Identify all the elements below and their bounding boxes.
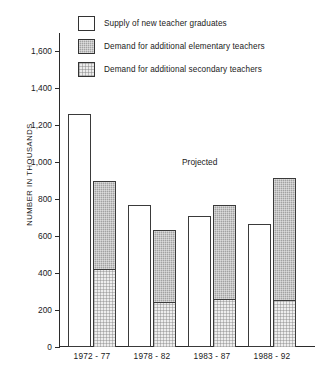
y-tick-label: 800 — [38, 194, 52, 204]
bar-segment-elementary — [213, 205, 236, 299]
bar-segment-elementary — [93, 181, 116, 269]
bar-group — [68, 33, 116, 347]
y-tick-label: 0 — [47, 342, 52, 352]
x-axis-label: 1978 - 82 — [120, 351, 184, 361]
bar-segment-secondary — [93, 269, 116, 348]
bar-supply — [128, 205, 151, 347]
bar-group — [188, 33, 236, 347]
bar-group — [128, 33, 176, 347]
bar-group — [248, 33, 296, 347]
bar-demand-stacked — [213, 205, 236, 347]
bar-segment-elementary — [273, 178, 296, 300]
y-tick-mark — [55, 310, 60, 311]
plot-area: 02004006008001,0001,2001,4001,600 1972 -… — [59, 33, 315, 347]
projected-annotation: Projected — [182, 157, 217, 167]
x-axis-label: 1988 - 92 — [240, 351, 304, 361]
y-tick-mark — [55, 125, 60, 126]
y-tick-label: 1,600 — [31, 46, 52, 56]
y-tick-mark — [55, 88, 60, 89]
legend-item-supply: Supply of new teacher graduates — [78, 12, 316, 34]
y-tick-label: 1,200 — [31, 120, 52, 130]
y-tick-mark — [55, 51, 60, 52]
legend-label-supply: Supply of new teacher graduates — [104, 19, 227, 28]
x-axis-label: 1983 - 87 — [180, 351, 244, 361]
y-tick-label: 400 — [38, 268, 52, 278]
bar-segment-elementary — [153, 230, 176, 302]
bar-supply — [68, 114, 91, 347]
y-tick-mark — [55, 162, 60, 163]
bar-demand-stacked — [273, 178, 296, 347]
y-tick-mark — [55, 199, 60, 200]
bar-segment-secondary — [153, 302, 176, 347]
y-tick-mark — [55, 236, 60, 237]
bar-supply — [188, 216, 211, 347]
y-axis-line — [59, 33, 60, 347]
y-tick-label: 600 — [38, 231, 52, 241]
chart-figure: Supply of new teacher graduates Demand f… — [0, 0, 320, 379]
y-tick-label: 200 — [38, 305, 52, 315]
bar-segment-secondary — [213, 299, 236, 347]
bar-supply — [248, 224, 271, 347]
y-tick-label: 1,000 — [31, 157, 52, 167]
bar-segment-secondary — [273, 300, 296, 347]
y-tick-mark — [55, 273, 60, 274]
bar-demand-stacked — [153, 230, 176, 347]
y-tick-mark — [55, 347, 60, 348]
x-axis-label: 1972 - 77 — [60, 351, 124, 361]
legend-swatch-supply-icon — [78, 16, 95, 31]
y-tick-label: 1,400 — [31, 83, 52, 93]
bar-demand-stacked — [93, 181, 116, 347]
